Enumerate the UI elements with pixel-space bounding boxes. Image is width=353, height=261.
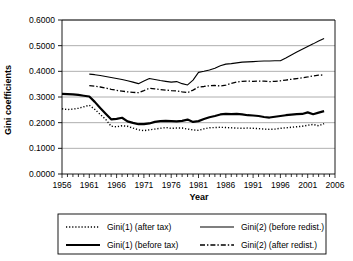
x-tick-label-3: 1971 xyxy=(134,180,153,190)
x-tick-label-5: 1981 xyxy=(189,180,208,190)
x-tick-label-4: 1976 xyxy=(162,180,181,190)
y-tick-label-0: 0.0000 xyxy=(29,169,55,179)
x-tick-label-2: 1966 xyxy=(107,180,126,190)
x-axis-tick-labels: 1956196119661971197619811986199119962001… xyxy=(53,180,345,190)
chart-legend: Gini(1) (after tax)Gini(1) (before tax)G… xyxy=(58,214,326,254)
x-tick-label-0: 1956 xyxy=(53,180,72,190)
legend-label-3: Gini(2) (after redist.) xyxy=(241,240,317,250)
y-axis-ticks xyxy=(58,20,62,174)
y-tick-label-3: 0.3000 xyxy=(29,92,55,102)
legend-label-0: Gini(1) (after tax) xyxy=(107,222,171,232)
chart-canvas: 0.00000.10000.20000.30000.40000.50000.60… xyxy=(0,0,353,261)
x-tick-label-10: 2006 xyxy=(326,180,345,190)
gridlines-group xyxy=(62,20,335,148)
x-axis-title: Year xyxy=(189,192,209,202)
x-tick-label-7: 1991 xyxy=(244,180,263,190)
y-tick-label-4: 0.4000 xyxy=(29,66,55,76)
y-tick-label-5: 0.5000 xyxy=(29,41,55,51)
y-tick-label-1: 0.1000 xyxy=(29,143,55,153)
x-tick-label-8: 1996 xyxy=(271,180,290,190)
y-axis-tick-labels: 0.00000.10000.20000.30000.40000.50000.60… xyxy=(29,15,55,179)
y-axis-title: Gini coefficients xyxy=(3,65,13,135)
x-tick-label-9: 2001 xyxy=(298,180,317,190)
x-axis-ticks xyxy=(62,174,335,178)
series-line-1 xyxy=(62,94,324,124)
legend-label-1: Gini(1) (before tax) xyxy=(107,240,178,250)
gini-coefficients-chart-figure: 0.00000.10000.20000.30000.40000.50000.60… xyxy=(0,0,353,261)
data-series-group xyxy=(62,38,324,130)
x-tick-label-6: 1986 xyxy=(216,180,235,190)
y-tick-label-6: 0.6000 xyxy=(29,15,55,25)
x-tick-label-1: 1961 xyxy=(80,180,99,190)
series-line-3 xyxy=(89,75,324,93)
y-tick-label-2: 0.2000 xyxy=(29,118,55,128)
legend-label-2: Gini(2) (before redist.) xyxy=(241,222,324,232)
